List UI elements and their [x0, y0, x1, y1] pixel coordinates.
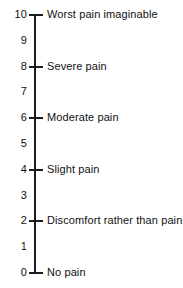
descriptor-label-4: Slight pain — [47, 164, 99, 175]
tick-number-8: 8 — [0, 61, 27, 72]
tick-number-0: 0 — [0, 267, 27, 278]
tick-number-1: 1 — [0, 241, 27, 252]
tick-mark-8 — [29, 66, 43, 68]
descriptor-label-10: Worst pain imaginable — [47, 9, 158, 20]
pain-scale-figure: 10Worst pain imaginable98Severe pain76Mo… — [0, 0, 183, 288]
tick-number-6: 6 — [0, 112, 27, 123]
tick-number-9: 9 — [0, 35, 27, 46]
descriptor-label-8: Severe pain — [47, 61, 107, 72]
tick-mark-4 — [29, 169, 43, 171]
tick-mark-10 — [29, 14, 43, 16]
tick-mark-0 — [29, 272, 43, 274]
descriptor-label-0: No pain — [47, 267, 86, 278]
tick-mark-6 — [29, 117, 43, 119]
descriptor-label-6: Moderate pain — [47, 112, 119, 123]
tick-number-4: 4 — [0, 164, 27, 175]
scale-axis-line — [34, 15, 36, 273]
tick-number-10: 10 — [0, 9, 27, 20]
tick-number-7: 7 — [0, 86, 27, 97]
tick-number-5: 5 — [0, 138, 27, 149]
descriptor-label-2: Discomfort rather than pain — [47, 215, 182, 226]
tick-number-2: 2 — [0, 215, 27, 226]
tick-number-3: 3 — [0, 190, 27, 201]
tick-mark-2 — [29, 220, 43, 222]
